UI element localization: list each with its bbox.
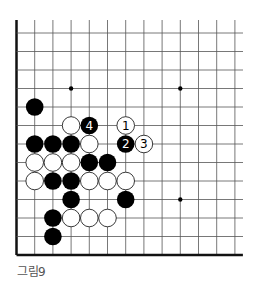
white-stone: [99, 172, 117, 190]
white-stone: [62, 154, 80, 172]
move-number-label: 1: [122, 119, 130, 133]
white-stone: [26, 172, 44, 190]
black-stone: [81, 154, 99, 172]
white-stone: [117, 172, 135, 190]
black-stone: [44, 135, 62, 153]
star-point-icon: [178, 197, 182, 201]
white-stone: [26, 154, 44, 172]
go-board: 4123: [0, 0, 259, 262]
black-stone: [62, 135, 80, 153]
white-stone: [62, 209, 80, 227]
black-stone: [117, 191, 135, 209]
white-stone-move-3: 3: [135, 135, 153, 153]
black-stone: [26, 135, 44, 153]
white-stone: [81, 209, 99, 227]
star-point-icon: [69, 86, 73, 90]
move-number-label: 2: [122, 137, 130, 151]
white-stone: [99, 209, 117, 227]
black-stone: [44, 228, 62, 246]
black-stone-move-4: 4: [81, 117, 99, 135]
black-stone-move-2: 2: [117, 135, 135, 153]
black-stone: [44, 209, 62, 227]
figure-caption: 그림9: [17, 262, 45, 279]
stones: 4123: [26, 98, 153, 245]
black-stone: [44, 172, 62, 190]
white-stone: [81, 135, 99, 153]
black-stone: [62, 172, 80, 190]
move-number-label: 4: [85, 119, 93, 133]
black-stone: [26, 98, 44, 116]
white-stone: [81, 172, 99, 190]
white-stone: [62, 117, 80, 135]
star-point-icon: [178, 86, 182, 90]
move-number-label: 3: [140, 137, 148, 151]
white-stone: [44, 154, 62, 172]
black-stone: [62, 191, 80, 209]
black-stone: [99, 154, 117, 172]
white-stone-move-1: 1: [117, 117, 135, 135]
